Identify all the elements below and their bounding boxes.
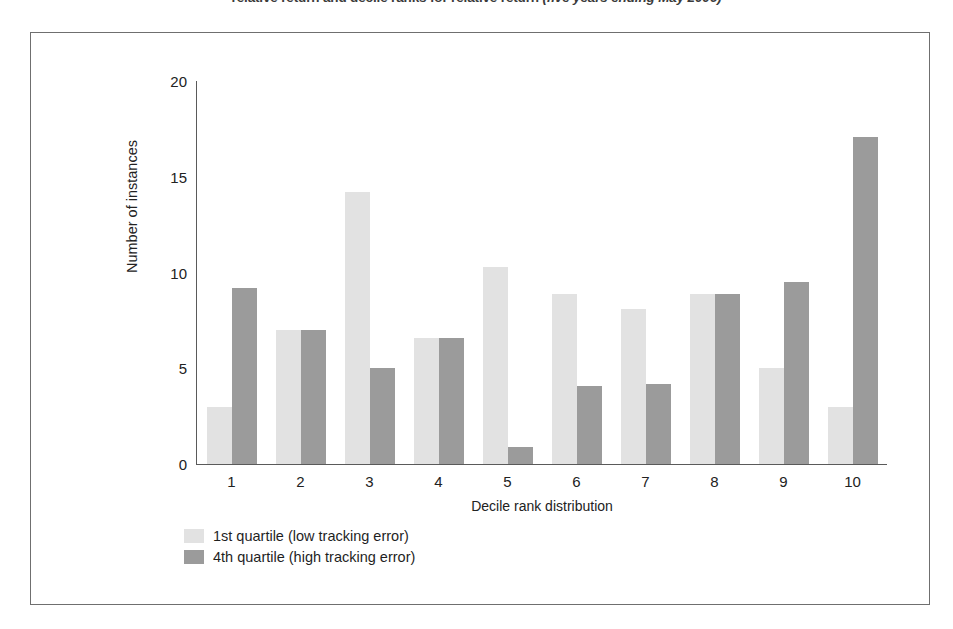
decile-group-6	[542, 81, 611, 464]
x-tick-5: 5	[473, 473, 542, 490]
y-tick-20: 20	[170, 74, 187, 89]
y-axis-title: Number of instances	[124, 140, 140, 273]
figure-title-plain: relative return and decile ranks for rel…	[232, 0, 543, 5]
bar-decile-3-series-1	[345, 192, 370, 464]
x-tick-1: 1	[197, 473, 266, 490]
x-tick-3: 3	[335, 473, 404, 490]
plot-area: 0 5 10 15 20 12345678910 Decile rank dis…	[196, 81, 887, 464]
bar-decile-2-series-1	[276, 330, 301, 464]
x-tick-2: 2	[266, 473, 335, 490]
decile-group-10	[818, 81, 887, 464]
bar-decile-8-series-1	[690, 294, 715, 464]
legend-swatch-2	[184, 550, 204, 564]
decile-group-9	[749, 81, 818, 464]
bar-decile-10-series-1	[828, 407, 853, 464]
x-axis-tick-row: 12345678910	[197, 473, 887, 490]
x-tick-9: 9	[749, 473, 818, 490]
bar-decile-10-series-2	[853, 137, 878, 464]
figure-title: relative return and decile ranks for rel…	[0, 0, 953, 5]
bar-decile-5-series-1	[483, 267, 508, 464]
bar-decile-8-series-2	[715, 294, 740, 464]
bar-decile-5-series-2	[508, 447, 533, 464]
bar-decile-4-series-2	[439, 338, 464, 464]
decile-group-3	[335, 81, 404, 464]
y-tick-15: 15	[170, 169, 187, 184]
bars-layer	[197, 81, 887, 464]
y-tick-10: 10	[170, 265, 187, 280]
bar-decile-6-series-2	[577, 386, 602, 465]
decile-group-8	[680, 81, 749, 464]
chart-legend: 1st quartile (low tracking error)4th qua…	[184, 525, 415, 567]
legend-swatch-1	[184, 529, 204, 543]
bar-decile-7-series-1	[621, 309, 646, 464]
y-tick-0: 0	[179, 457, 187, 472]
bar-decile-9-series-1	[759, 368, 784, 464]
legend-label-2: 4th quartile (high tracking error)	[213, 549, 415, 565]
bar-decile-6-series-1	[552, 294, 577, 464]
bar-decile-1-series-2	[232, 288, 257, 464]
legend-label-1: 1st quartile (low tracking error)	[213, 528, 409, 544]
bar-decile-7-series-2	[646, 384, 671, 464]
x-tick-6: 6	[542, 473, 611, 490]
legend-item-2: 4th quartile (high tracking error)	[184, 546, 415, 567]
figure-title-italic: (five years ending May 2006)	[543, 0, 722, 5]
bar-decile-9-series-2	[784, 282, 809, 464]
decile-group-7	[611, 81, 680, 464]
figure-frame: Number of instances 0 5 10 15 20 1234567…	[30, 32, 930, 605]
decile-group-1	[197, 81, 266, 464]
x-tick-10: 10	[818, 473, 887, 490]
bar-decile-2-series-2	[301, 330, 326, 464]
decile-group-5	[473, 81, 542, 464]
x-tick-8: 8	[680, 473, 749, 490]
decile-group-2	[266, 81, 335, 464]
x-axis-line	[196, 464, 887, 465]
y-tick-5: 5	[179, 361, 187, 376]
x-axis-title: Decile rank distribution	[197, 498, 887, 514]
x-tick-4: 4	[404, 473, 473, 490]
legend-item-1: 1st quartile (low tracking error)	[184, 525, 415, 546]
x-tick-7: 7	[611, 473, 680, 490]
bar-decile-1-series-1	[207, 407, 232, 464]
decile-group-4	[404, 81, 473, 464]
bar-decile-4-series-1	[414, 338, 439, 464]
bar-decile-3-series-2	[370, 368, 395, 464]
